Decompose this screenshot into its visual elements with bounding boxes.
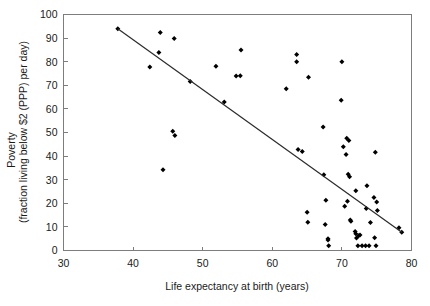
y-tick-label: 40 xyxy=(46,150,58,162)
y-axis-ticks xyxy=(64,15,68,251)
data-point xyxy=(213,64,218,69)
x-tick-label: 80 xyxy=(406,257,418,269)
data-point xyxy=(371,195,376,200)
x-tick-label: 60 xyxy=(266,257,278,269)
data-point xyxy=(156,50,161,55)
data-point xyxy=(368,220,373,225)
data-point xyxy=(342,204,347,209)
data-point xyxy=(339,59,344,64)
data-point xyxy=(374,243,379,248)
data-point xyxy=(147,64,152,69)
data-point xyxy=(158,30,163,35)
data-point xyxy=(374,200,379,205)
data-point xyxy=(326,243,331,248)
data-point xyxy=(339,98,344,103)
x-axis-tick-labels: 304050607080 xyxy=(58,257,418,269)
data-point xyxy=(367,243,372,248)
y-axis-title: Poverty (fraction living below $2 (PPP) … xyxy=(5,41,29,223)
x-tick-label: 50 xyxy=(197,257,209,269)
data-point xyxy=(238,47,243,52)
data-point xyxy=(238,73,243,78)
data-point xyxy=(172,36,177,41)
data-point xyxy=(341,144,346,149)
y-tick-label: 30 xyxy=(46,174,58,186)
data-point xyxy=(323,198,328,203)
data-point xyxy=(306,75,311,80)
scatter-points xyxy=(115,26,404,248)
y-axis-title-line-2: (fraction living below $2 (PPP) per day) xyxy=(17,41,29,223)
x-axis-title: Life expectancy at birth (years) xyxy=(165,280,309,292)
data-point xyxy=(373,150,378,155)
y-tick-label: 70 xyxy=(46,79,58,91)
y-axis-tick-labels: 0102030405060708090100 xyxy=(40,8,58,256)
data-point xyxy=(294,52,299,57)
x-tick-label: 40 xyxy=(127,257,139,269)
data-point xyxy=(305,220,310,225)
plot-frame xyxy=(64,15,412,251)
y-tick-label: 20 xyxy=(46,197,58,209)
y-tick-label: 90 xyxy=(46,32,58,44)
y-tick-label: 80 xyxy=(46,56,58,68)
y-tick-label: 100 xyxy=(40,8,58,20)
x-tick-label: 30 xyxy=(58,257,70,269)
data-point xyxy=(294,59,299,64)
poverty-life-expectancy-scatter-figure: 0102030405060708090100 304050607080 Pove… xyxy=(0,0,430,306)
data-point xyxy=(170,129,175,134)
data-point xyxy=(305,210,310,215)
y-tick-label: 0 xyxy=(52,244,58,256)
data-point xyxy=(296,147,301,152)
x-axis-ticks xyxy=(64,247,412,251)
y-axis-title-line-1: Poverty xyxy=(5,131,17,167)
data-point xyxy=(323,222,328,227)
data-point xyxy=(375,208,380,213)
data-point xyxy=(234,74,239,79)
regression-trend-line xyxy=(118,29,402,233)
x-tick-label: 70 xyxy=(336,257,348,269)
data-point xyxy=(284,86,289,91)
data-point xyxy=(353,188,358,193)
data-point xyxy=(161,167,166,172)
data-point xyxy=(321,125,326,130)
data-point xyxy=(344,152,349,157)
data-point xyxy=(172,133,177,138)
data-point xyxy=(364,183,369,188)
plot-border xyxy=(64,15,412,251)
y-tick-label: 50 xyxy=(46,126,58,138)
data-point xyxy=(345,199,350,204)
data-point xyxy=(372,235,377,240)
y-tick-label: 10 xyxy=(46,221,58,233)
y-tick-label: 60 xyxy=(46,103,58,115)
data-point xyxy=(300,149,305,154)
chart-canvas: 0102030405060708090100 304050607080 Pove… xyxy=(0,0,430,306)
